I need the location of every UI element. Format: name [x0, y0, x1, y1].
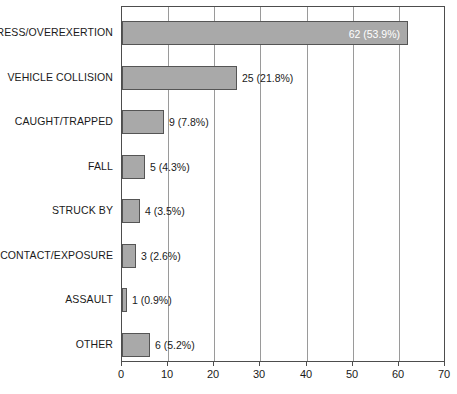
category-label: CAUGHT/TRAPPED: [15, 109, 113, 133]
bar: [122, 110, 164, 134]
bar-row: 3 (2.6%): [122, 244, 445, 268]
category-label: OTHER: [76, 332, 113, 356]
x-tick-label: 10: [161, 368, 173, 380]
x-tick-label: 70: [438, 368, 450, 380]
bar: [122, 66, 237, 90]
bar-row: 1 (0.9%): [122, 288, 445, 312]
bar-value-label: 3 (2.6%): [136, 244, 181, 268]
category-label: FALL: [88, 154, 113, 178]
x-tick-mark: [213, 362, 214, 366]
bar-row: 4 (3.5%): [122, 199, 445, 223]
category-label: ASSAULT: [65, 287, 113, 311]
x-tick-mark: [306, 362, 307, 366]
bar-row: 9 (7.8%): [122, 110, 445, 134]
x-tick-label: 60: [392, 368, 404, 380]
x-tick-mark: [398, 362, 399, 366]
bar-value-label: 1 (0.9%): [127, 288, 172, 312]
bar: [122, 155, 145, 179]
bar-value-label: 9 (7.8%): [164, 110, 209, 134]
x-tick-label: 40: [300, 368, 312, 380]
bar: [122, 333, 150, 357]
bar-value-label: 4 (3.5%): [140, 199, 185, 223]
bar-row: 5 (4.3%): [122, 155, 445, 179]
bar-value-label: 6 (5.2%): [150, 333, 195, 357]
bar-value-label: 5 (4.3%): [145, 155, 190, 179]
x-tick-label: 30: [253, 368, 265, 380]
bar-row: 25 (21.8%): [122, 66, 445, 90]
bar: 62 (53.9%): [122, 21, 408, 45]
category-label: CONTACT/EXPOSURE: [0, 243, 113, 267]
x-tick-label: 0: [118, 368, 124, 380]
x-tick-label: 20: [207, 368, 219, 380]
bar-chart: 62 (53.9%)25 (21.8%)9 (7.8%)5 (4.3%)4 (3…: [0, 0, 457, 394]
category-label: VEHICLE COLLISION: [7, 65, 113, 89]
x-tick-mark: [259, 362, 260, 366]
x-tick-mark: [444, 362, 445, 366]
x-tick-mark: [352, 362, 353, 366]
bar-row: 6 (5.2%): [122, 333, 445, 357]
bar: [122, 244, 136, 268]
category-label: STRUCK BY: [52, 198, 113, 222]
x-tick-mark: [167, 362, 168, 366]
bar-row: 62 (53.9%): [122, 21, 445, 45]
x-tick-mark: [121, 362, 122, 366]
x-tick-label: 50: [346, 368, 358, 380]
bar-value-label: 62 (53.9%): [349, 22, 407, 46]
category-label: STRESS/OVEREXERTION: [0, 20, 113, 44]
bar-value-label: 25 (21.8%): [237, 66, 293, 90]
plot-area: 62 (53.9%)25 (21.8%)9 (7.8%)5 (4.3%)4 (3…: [121, 6, 445, 362]
bar: [122, 199, 140, 223]
